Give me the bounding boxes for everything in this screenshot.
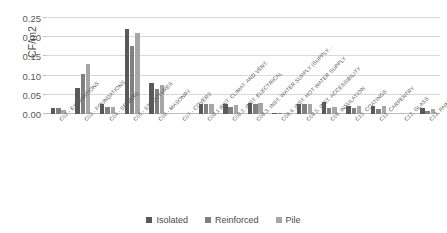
y-axis-tick-label: 0.15 (23, 51, 42, 62)
bar (253, 104, 257, 114)
bar (352, 108, 356, 114)
bar (130, 46, 134, 114)
bar (278, 113, 282, 114)
legend-swatch-icon (205, 217, 211, 223)
bar (56, 108, 60, 114)
y-axis-tick-label: 0.10 (23, 70, 42, 81)
bar (105, 107, 109, 114)
legend-item[interactable]: Isolated (146, 215, 188, 225)
y-axis-tick-label: 0.00 (23, 109, 42, 120)
x-axis-tick-label: C08.3. INST. WATER SUPPLY (SUPPLY... (255, 118, 259, 122)
bar (420, 108, 424, 114)
legend-swatch-icon (146, 217, 152, 223)
legend-label: Isolated (156, 215, 188, 225)
bar (135, 33, 139, 114)
x-axis-tick-label: C07.- COVERS (181, 118, 185, 122)
legend-item[interactable]: Reinforced (205, 215, 259, 225)
y-axis-tick-label: 0.05 (23, 89, 42, 100)
x-axis-tick-label: C05.- STRUCTURES (132, 118, 136, 122)
bar-group (46, 18, 71, 114)
bar (376, 109, 380, 114)
legend-item[interactable]: Pile (276, 215, 301, 225)
y-axis-tick-label: 0.20 (23, 32, 42, 43)
x-axis-tick-label: C08.2. INST. ELECTRICAL (231, 118, 235, 122)
x-axis-tick-label: C04.- SEWERS (108, 118, 112, 122)
chart-legend: IsolatedReinforcedPile (0, 215, 447, 225)
x-axis-tick-label: C02.- EXCAVATIONS (58, 118, 62, 122)
bar (272, 113, 276, 114)
x-axis-labels: C02.- EXCAVATIONSC03.- FOUNDATIONSC04.- … (46, 116, 440, 196)
x-axis-tick-label: C08.4. INST. HOT WATER SUPPLY (280, 118, 284, 122)
bar (302, 104, 306, 114)
bar (327, 108, 331, 114)
legend-label: Reinforced (215, 215, 259, 225)
x-axis-tick-label: C03.- FOUNDATIONS (83, 118, 87, 122)
x-axis-tick-label: C11. CARPENTRY (378, 118, 382, 122)
bar (425, 111, 429, 114)
y-axis-tick-label: 0.25 (23, 13, 42, 24)
x-axis-tick-label: C08.5. INST. ACCESSIBILITY (305, 118, 309, 122)
x-axis-tick-label: C06.- MASONRY (157, 118, 161, 122)
legend-label: Pile (286, 215, 301, 225)
x-axis-tick-label: C13. PAINT (428, 118, 432, 122)
x-axis-tick-label: C09. INSULATION (329, 118, 333, 122)
bar (228, 107, 232, 114)
x-axis-tick-label: C10. COATINGS (354, 118, 358, 122)
x-axis-tick-label: C08.1 INST. CLIMAT. AND VENT. (206, 118, 210, 122)
bar-chart: CF/m2 0.000.050.100.150.200.25 C02.- EXC… (0, 0, 447, 233)
bar (51, 108, 55, 114)
x-axis-tick-label: C12. GLASS (403, 118, 407, 122)
bar (204, 104, 208, 114)
legend-swatch-icon (276, 217, 282, 223)
